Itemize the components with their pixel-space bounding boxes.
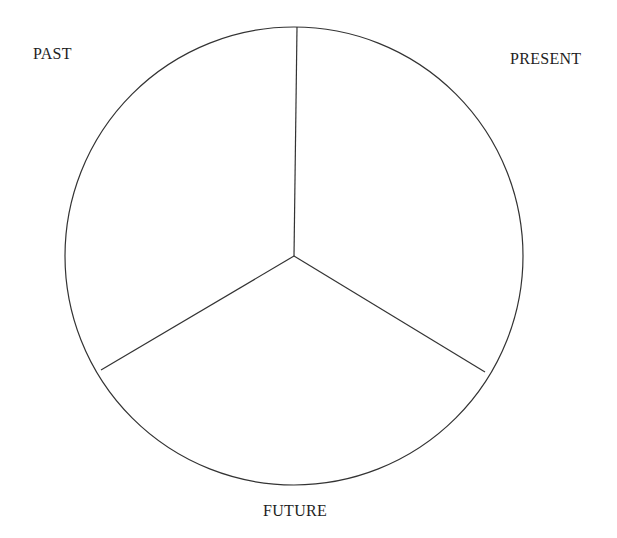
time-circle-diagram: PAST PRESENT FUTURE xyxy=(0,0,617,538)
spoke-lower-left xyxy=(101,256,294,370)
label-present: PRESENT xyxy=(510,50,581,68)
spoke-lower-right xyxy=(294,256,485,372)
spoke-top xyxy=(294,27,297,256)
label-past: PAST xyxy=(33,45,72,63)
circle-diagram-svg xyxy=(0,0,617,538)
label-future: FUTURE xyxy=(263,502,327,520)
